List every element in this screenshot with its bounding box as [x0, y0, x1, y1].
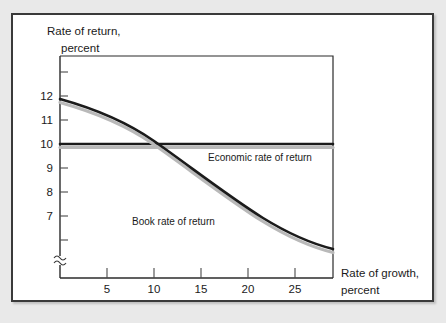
x-tick-label-25: 25: [289, 283, 302, 295]
chart-area: Rate of return, percent: [13, 15, 432, 300]
y-tick-marks: [60, 72, 68, 240]
y-axis-title-line1: Rate of return,: [47, 25, 121, 37]
x-tick-label-10: 10: [148, 283, 161, 295]
x-tick-label-5: 5: [104, 283, 110, 295]
x-tick-label-20: 20: [242, 283, 255, 295]
x-tick-marks: [107, 268, 295, 278]
series-label-economic-rate-of-return: Economic rate of return: [208, 152, 312, 163]
y-tick-label-11: 11: [41, 114, 53, 126]
series-economic-rate-of-return: [60, 144, 333, 148]
y-tick-label-10: 10: [40, 138, 53, 150]
y-axis-break-icon: [54, 256, 66, 265]
figure-frame: Rate of return, percent: [11, 13, 434, 302]
series-label-book-rate-of-return: Book rate of return: [132, 216, 215, 227]
x-axis-title-line1: Rate of growth,: [341, 267, 419, 279]
y-tick-label-9: 9: [47, 162, 53, 174]
plot-frame: [60, 56, 333, 278]
chart-svg: Rate of return, percent: [13, 15, 432, 300]
y-tick-label-8: 8: [47, 186, 53, 198]
x-axis-title-line2: percent: [341, 284, 380, 296]
x-tick-label-15: 15: [195, 283, 208, 295]
y-tick-label-7: 7: [47, 210, 53, 222]
y-axis-title-line2: percent: [61, 42, 100, 54]
series-book-rate-of-return: [60, 99, 333, 253]
y-tick-label-12: 12: [40, 90, 53, 102]
